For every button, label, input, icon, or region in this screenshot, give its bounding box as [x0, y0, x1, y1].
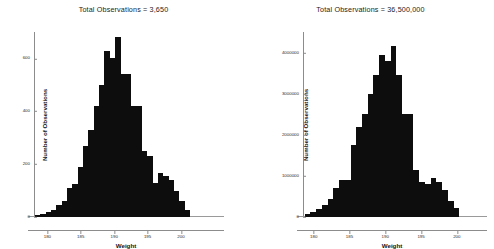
y-tick-label: 400: [23, 109, 34, 113]
histogram-bar: [454, 208, 460, 217]
x-tick-label: 195: [417, 235, 424, 239]
x-tick-label: 200: [453, 235, 460, 239]
y-tick-label: 1000000: [282, 174, 303, 178]
x-tick-label: 180: [44, 235, 51, 239]
y-tick-label: 2000000: [282, 133, 303, 137]
x-axis-title-right: Weight: [297, 242, 487, 249]
histogram-bars-left: [35, 32, 202, 217]
histogram-bars-right: [304, 32, 465, 217]
y-tick-label: 0: [297, 215, 303, 219]
x-tick-label: 200: [177, 235, 184, 239]
panel-title-left: Total Observations = 3,650: [0, 5, 247, 14]
plot-area-right: Number of Observations Weight 0100000020…: [303, 32, 465, 217]
x-axis-line-left: [28, 230, 224, 231]
x-tick-label: 190: [382, 235, 389, 239]
x-axis-line-right: [297, 230, 487, 231]
histogram-bar: [185, 210, 190, 217]
x-tick-label: 185: [77, 235, 84, 239]
y-tick-label: 0: [28, 215, 34, 219]
panel-title-right: Total Observations = 36,500,000: [247, 5, 494, 14]
x-tick-label: 185: [346, 235, 353, 239]
y-tick-label: 4000000: [282, 50, 303, 54]
x-tick-label: 180: [310, 235, 317, 239]
x-axis-title-left: Weight: [28, 242, 224, 249]
chart-panel-left: Total Observations = 3,650 Number of Obs…: [0, 0, 247, 249]
y-tick-label: 3000000: [282, 91, 303, 95]
y-tick-label: 200: [23, 162, 34, 166]
x-tick-label: 190: [110, 235, 117, 239]
plot-area-left: Number of Observations Weight 0200400600…: [34, 32, 202, 217]
histogram-figure: Total Observations = 3,650 Number of Obs…: [0, 0, 494, 249]
chart-panel-right: Total Observations = 36,500,000 Number o…: [247, 0, 494, 249]
x-tick-label: 195: [144, 235, 151, 239]
y-tick-label: 600: [23, 56, 34, 60]
